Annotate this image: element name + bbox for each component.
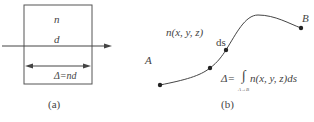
dimension-left-arrow-icon bbox=[25, 64, 33, 69]
segment-start-dot bbox=[208, 66, 212, 70]
point-B-label: B bbox=[302, 12, 309, 24]
point-A-dot bbox=[158, 83, 162, 87]
caption-b: (b) bbox=[221, 98, 234, 110]
integral-limits: A→B bbox=[238, 87, 249, 92]
caption-a: (a) bbox=[48, 98, 60, 110]
integral-sign: ∫ bbox=[242, 68, 246, 84]
optical-path-label: Δ=nd bbox=[54, 70, 77, 81]
refractive-index-label: n bbox=[54, 13, 60, 25]
ds-label: ds bbox=[216, 36, 226, 48]
segment-end-dot bbox=[224, 48, 228, 52]
index-function-label: n(x, y, z) bbox=[166, 26, 203, 38]
point-B-dot bbox=[299, 26, 303, 30]
formula-lhs: Δ= bbox=[221, 72, 235, 84]
point-A-label: A bbox=[145, 54, 152, 66]
ray-arrowhead-icon bbox=[104, 44, 112, 49]
thickness-label: d bbox=[54, 33, 60, 45]
dimension-right-arrow-icon bbox=[83, 64, 91, 69]
formula-rhs: n(x, y, z)ds bbox=[250, 72, 297, 84]
